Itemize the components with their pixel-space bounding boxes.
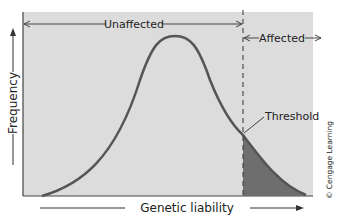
y-axis-arrowhead-icon xyxy=(10,28,16,36)
liability-threshold-diagram: Unaffected Affected Threshold Genetic li… xyxy=(0,0,337,220)
threshold-label: Threshold xyxy=(264,110,319,123)
x-axis-label: Genetic liability xyxy=(140,201,234,215)
unaffected-label: Unaffected xyxy=(104,18,164,31)
y-axis-label: Frequency xyxy=(6,72,20,134)
credit-text: © Cengage Learning xyxy=(325,121,334,199)
x-axis-arrowhead-icon xyxy=(296,205,304,211)
affected-label: Affected xyxy=(259,32,305,45)
